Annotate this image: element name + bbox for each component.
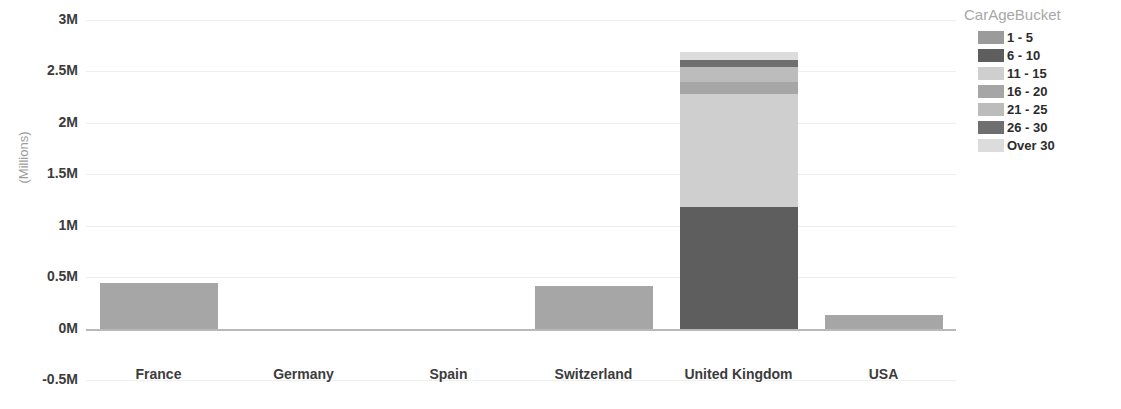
legend-item[interactable]: 16 - 20 [978,82,1120,100]
legend-swatch-icon [978,49,1004,62]
legend-item[interactable]: 11 - 15 [978,64,1120,82]
legend-item-label: Over 30 [1007,138,1055,153]
legend-item-label: 1 - 5 [1007,30,1033,45]
bar-segment[interactable] [680,207,798,328]
y-tick-label: 2.5M [8,62,78,78]
legend-swatch-icon [978,103,1004,116]
x-tick-label: Switzerland [521,366,666,382]
legend-item-label: 26 - 30 [1007,120,1047,135]
bar-segment[interactable] [825,315,943,328]
legend-item[interactable]: 1 - 5 [978,28,1120,46]
y-tick-label: 0M [8,320,78,336]
legend-swatch-icon [978,139,1004,152]
legend-swatch-icon [978,85,1004,98]
bar-group[interactable] [245,20,363,380]
x-tick-label: France [86,366,231,382]
legend-swatch-icon [978,121,1004,134]
x-tick-label: Germany [231,366,376,382]
legend-items: 1 - 56 - 1011 - 1516 - 2021 - 2526 - 30O… [962,28,1120,154]
y-tick-label: 1M [8,217,78,233]
y-tick-label: 3M [8,11,78,27]
legend-item-label: 11 - 15 [1007,66,1047,81]
legend-item-label: 16 - 20 [1007,84,1047,99]
plot-area [86,20,956,380]
bar-segment[interactable] [535,286,653,328]
bar-segment[interactable] [100,283,218,328]
bar-segment[interactable] [680,82,798,94]
bar-group[interactable] [535,20,653,380]
legend-item-label: 6 - 10 [1007,48,1040,63]
y-tick-label: 1.5M [8,165,78,181]
legend-swatch-icon [978,31,1004,44]
bar-group[interactable] [390,20,508,380]
x-tick-label: Spain [376,366,521,382]
bar-segment[interactable] [680,94,798,207]
x-tick-label: USA [811,366,956,382]
x-axis-tick-labels: FranceGermanySpainSwitzerlandUnited King… [86,366,956,396]
bar-segment[interactable] [680,60,798,67]
legend-item[interactable]: 21 - 25 [978,100,1120,118]
y-tick-label: -0.5M [8,371,78,387]
legend-item-label: 21 - 25 [1007,102,1047,117]
bar-group[interactable] [825,20,943,380]
legend-title: CarAgeBucket [964,6,1120,23]
bar-group[interactable] [100,20,218,380]
legend-item[interactable]: 26 - 30 [978,118,1120,136]
bar-segment[interactable] [680,52,798,60]
bar-segment[interactable] [680,67,798,81]
x-tick-label: United Kingdom [666,366,811,382]
legend-item[interactable]: 6 - 10 [978,46,1120,64]
bars-layer [86,20,956,380]
legend-item[interactable]: Over 30 [978,136,1120,154]
bar-group[interactable] [680,20,798,380]
stacked-bar-chart: (Millions) 3M2.5M2M1.5M1M0.5M0M-0.5M Fra… [0,0,1121,409]
y-tick-label: 2M [8,114,78,130]
legend-swatch-icon [978,67,1004,80]
y-tick-label: 0.5M [8,268,78,284]
legend: CarAgeBucket 1 - 56 - 1011 - 1516 - 2021… [962,6,1120,154]
